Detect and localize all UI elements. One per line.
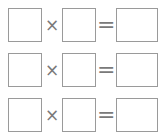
multiply-sign: × [43, 8, 61, 42]
equation-row-3: × = [0, 98, 166, 132]
multiply-sign: × [43, 53, 61, 87]
operand2-box[interactable] [62, 53, 96, 87]
operand1-box[interactable] [8, 98, 42, 132]
result-box[interactable] [116, 98, 158, 132]
equation-row-2: × = [0, 53, 166, 87]
multiply-sign: × [43, 98, 61, 132]
equals-sign: = [97, 98, 115, 132]
equation-row-1: × = [0, 8, 166, 42]
operand1-box[interactable] [8, 8, 42, 42]
operand2-box[interactable] [62, 8, 96, 42]
equals-sign: = [97, 53, 115, 87]
operand1-box[interactable] [8, 53, 42, 87]
operand2-box[interactable] [62, 98, 96, 132]
result-box[interactable] [116, 53, 158, 87]
equals-sign: = [97, 8, 115, 42]
result-box[interactable] [116, 8, 158, 42]
